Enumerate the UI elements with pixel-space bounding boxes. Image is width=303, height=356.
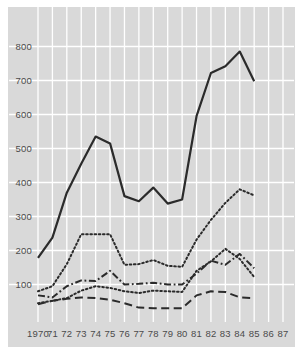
y-axis-tick-label: 200 (0, 245, 32, 256)
line-chart-figure: 1002003004005006007008001970717273747576… (0, 0, 303, 356)
x-axis-tick-label: 87 (275, 328, 291, 339)
y-axis-tick-label: 400 (0, 177, 32, 188)
gridlines (9, 7, 294, 322)
y-axis-tick-label: 800 (0, 41, 32, 52)
series-line-solid-series (38, 52, 254, 258)
y-axis-tick-label: 100 (0, 279, 32, 290)
plot-canvas (0, 0, 303, 356)
y-axis-tick-label: 300 (0, 211, 32, 222)
y-axis-tick-label: 700 (0, 75, 32, 86)
y-axis-tick-label: 600 (0, 109, 32, 120)
series-line-long-dash-series (38, 291, 254, 308)
series-line-dotted-series-upper (38, 189, 254, 291)
y-axis-tick-label: 500 (0, 143, 32, 154)
